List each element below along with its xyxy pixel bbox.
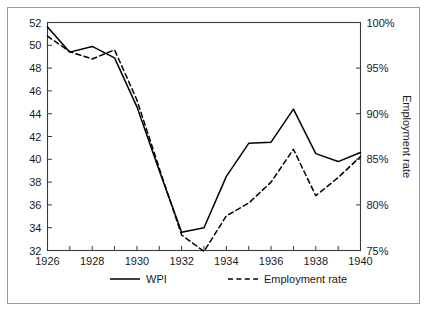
x-axis-tick-label: 1930 xyxy=(125,255,149,267)
x-axis-tick-label: 1936 xyxy=(259,255,283,267)
y-axis-left-tick-label: 44 xyxy=(29,108,41,120)
chart-legend: WPIEmployment rate xyxy=(110,273,347,285)
x-axis-tick-label: 1934 xyxy=(214,255,238,267)
y-axis-left-tick-label: 52 xyxy=(29,17,41,29)
y-axis-right-tick-label: 90% xyxy=(367,108,389,120)
legend-label: WPI xyxy=(146,273,167,285)
y-axis-left-tick-label: 32 xyxy=(29,245,41,257)
plot-area-frame xyxy=(48,23,361,251)
y-axis-left-tick-label: 46 xyxy=(29,85,41,97)
y-axis-right-tick-label: 85% xyxy=(367,153,389,165)
y-axis-left-tick-label: 50 xyxy=(29,39,41,51)
y-axis-left-tick-label: 38 xyxy=(29,176,41,188)
line-chart: 1926192819301932193419361938194032343638… xyxy=(0,0,427,311)
chart-figure: 1926192819301932193419361938194032343638… xyxy=(0,0,427,311)
x-axis-tick-label: 1940 xyxy=(348,255,372,267)
y-axis-right-tick-label: 75% xyxy=(367,245,389,257)
y-axis-right-tick-label: 80% xyxy=(367,199,389,211)
y-axis-left-tick-label: 48 xyxy=(29,62,41,74)
y-axis-right-title: Employment rate xyxy=(401,95,413,178)
x-axis-tick-label: 1928 xyxy=(80,255,104,267)
y-axis-left-tick-label: 34 xyxy=(29,222,41,234)
y-axis-left-tick-label: 40 xyxy=(29,153,41,165)
legend-item: WPI xyxy=(110,273,167,285)
y-axis-right: 75%80%85%90%95%100% xyxy=(356,17,395,257)
y-axis-left-tick-label: 36 xyxy=(29,199,41,211)
y-axis-right-tick-label: 100% xyxy=(367,17,395,29)
legend-item: Employment rate xyxy=(228,273,347,285)
y-axis-left-tick-label: 42 xyxy=(29,131,41,143)
x-axis-tick-label: 1926 xyxy=(35,255,59,267)
x-axis-tick-label: 1932 xyxy=(169,255,193,267)
x-axis-tick-label: 1938 xyxy=(304,255,328,267)
y-axis-right-tick-label: 95% xyxy=(367,62,389,74)
legend-label: Employment rate xyxy=(264,273,347,285)
